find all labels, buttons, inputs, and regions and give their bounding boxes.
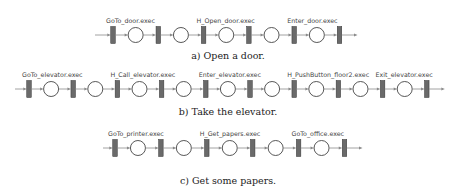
place (88, 82, 103, 97)
transition (296, 140, 301, 157)
place (176, 82, 191, 97)
transition-label: H_Open_door.exec (197, 17, 256, 25)
arrow-head-icon (107, 33, 111, 36)
transition (292, 27, 297, 44)
arrow-head-icon (350, 87, 354, 90)
arrow-head-icon (109, 146, 113, 149)
transition-label: Enter_door.exec (287, 17, 338, 25)
arrow-head-icon (67, 87, 71, 90)
arrow-head-icon (170, 33, 174, 36)
petri-net-open-door: GoTo_door.execH_Open_door.execEnter_door… (95, 17, 358, 44)
arrow-head-icon (244, 87, 248, 90)
transition (113, 140, 118, 157)
place (220, 82, 235, 97)
caption-open-door: a) Open a door. (191, 50, 265, 61)
arrow-head-icon (421, 87, 425, 90)
arrow-head-icon (247, 146, 251, 149)
place (309, 28, 324, 43)
arrow-head-icon (40, 87, 44, 90)
arrow-head-icon (153, 33, 157, 36)
transition-label: GoTo_printer.exec (108, 130, 164, 138)
arrow-head-icon (354, 33, 358, 36)
transition (71, 81, 76, 98)
transition-label: Exit_elevator.exec (376, 71, 434, 79)
transition-label: Enter_elevator.exec (199, 71, 262, 79)
petri-net-take-elevator: GoTo_elevator.execH_Call_elevator.execEn… (15, 71, 445, 98)
arrow-head-icon (112, 87, 116, 90)
arrow-head-icon (219, 146, 223, 149)
place (176, 141, 191, 156)
arrow-head-icon (359, 146, 363, 149)
place (128, 28, 143, 43)
transition (248, 81, 253, 98)
transition (27, 81, 32, 98)
arrow-head-icon (156, 87, 160, 90)
transition (342, 140, 347, 157)
arrow-head-icon (265, 146, 269, 149)
arrow-head-icon (261, 33, 265, 36)
arrow-head-icon (394, 87, 398, 90)
arrow-head-icon (288, 87, 292, 90)
arrow-head-icon (84, 87, 88, 90)
arrow-head-icon (129, 87, 133, 90)
transition (115, 81, 120, 98)
transition-label: H_Get_papers.exec (200, 130, 261, 138)
place (222, 141, 237, 156)
arrow-head-icon (215, 33, 219, 36)
place (353, 82, 368, 97)
place (314, 141, 329, 156)
arrow-head-icon (377, 87, 381, 90)
transition (247, 27, 252, 44)
arrow-head-icon (339, 146, 343, 149)
transition (337, 27, 342, 44)
place (265, 82, 280, 97)
place (44, 82, 59, 97)
place (268, 141, 283, 156)
place (132, 82, 147, 97)
transition-label: GoTo_office.exec (292, 130, 345, 138)
arrow-head-icon (243, 33, 247, 36)
transition (111, 27, 116, 44)
arrow-head-icon (306, 33, 310, 36)
arrow-head-icon (293, 146, 297, 149)
arrow-head-icon (201, 146, 205, 149)
transition (250, 140, 255, 157)
petri-net-diagram: GoTo_door.execH_Open_door.execEnter_door… (0, 0, 455, 196)
transition (380, 81, 385, 98)
arrow-head-icon (173, 146, 177, 149)
transition (201, 27, 206, 44)
arrow-head-icon (334, 33, 338, 36)
arrow-head-icon (217, 87, 221, 90)
petri-net-get-papers: GoTo_printer.execH_Get_papers.execGoTo_o… (103, 130, 363, 157)
arrow-head-icon (288, 33, 292, 36)
arrow-head-icon (305, 87, 309, 90)
arrow-head-icon (23, 87, 27, 90)
place (173, 28, 188, 43)
arrow-head-icon (155, 146, 159, 149)
arrow-head-icon (173, 87, 177, 90)
arrow-head-icon (127, 146, 131, 149)
transition-label: H_Call_elevator.exec (110, 71, 175, 79)
transition (159, 140, 164, 157)
place (219, 28, 234, 43)
transition-label: H_PushButton_floor2.exec (287, 71, 370, 79)
transition (205, 140, 210, 157)
transition-label: GoTo_door.exec (106, 17, 155, 25)
transition (425, 81, 430, 98)
transition (159, 81, 164, 98)
place (264, 28, 279, 43)
arrow-head-icon (441, 87, 445, 90)
arrow-head-icon (261, 87, 265, 90)
place (309, 82, 324, 97)
arrow-head-icon (198, 33, 202, 36)
arrow-head-icon (125, 33, 128, 36)
transition-label: GoTo_elevator.exec (22, 71, 83, 79)
caption-take-elevator: b) Take the elevator. (179, 106, 277, 117)
caption-get-papers: c) Get some papers. (180, 175, 276, 186)
transition (156, 27, 161, 44)
arrow-head-icon (311, 146, 315, 149)
place (397, 82, 412, 97)
transition (292, 81, 297, 98)
transition (336, 81, 341, 98)
arrow-head-icon (200, 87, 204, 90)
